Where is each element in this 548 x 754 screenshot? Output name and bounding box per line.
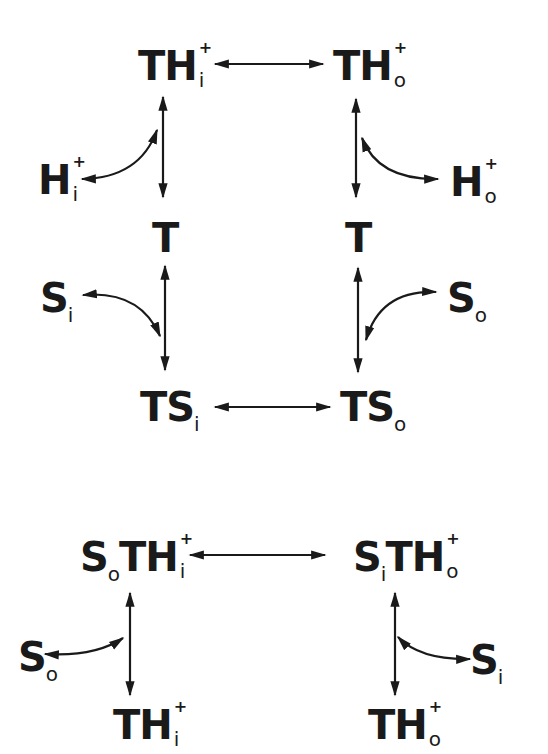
arrow-release-ho bbox=[362, 138, 438, 179]
node-h-outside: H+o bbox=[450, 162, 496, 202]
node-so-th-inside: SoTH+i bbox=[80, 537, 192, 584]
node-ts-outside: TSo bbox=[340, 387, 405, 434]
node-sub: o bbox=[46, 662, 57, 686]
node-base: S bbox=[470, 637, 498, 683]
node-sup: + bbox=[199, 40, 211, 56]
node-base: S bbox=[80, 534, 108, 580]
node-s-inside-released: Si bbox=[470, 640, 502, 687]
arrow-release-hi bbox=[82, 130, 157, 179]
node-ts-inside: TSi bbox=[140, 387, 199, 434]
node-sub: i bbox=[180, 561, 185, 581]
arrow-bind-si bbox=[83, 295, 160, 336]
node-indices: +i bbox=[178, 537, 192, 577]
node-indices: +o bbox=[427, 705, 441, 745]
node-base: H bbox=[38, 157, 70, 203]
node-th-outside: TH+o bbox=[333, 46, 406, 86]
node-base: S bbox=[18, 634, 46, 680]
arrow-release-si bbox=[398, 637, 470, 659]
node-th-inside-bottom: TH+i bbox=[113, 705, 186, 745]
node-indices: +o bbox=[392, 46, 406, 86]
node-sub: i bbox=[68, 303, 73, 327]
node-sup: + bbox=[180, 531, 192, 547]
node-indices: +o bbox=[444, 537, 458, 577]
node-base: T bbox=[152, 215, 178, 261]
node-base: S bbox=[40, 275, 68, 321]
arrow-bind-so bbox=[366, 292, 436, 340]
node-sub: o bbox=[108, 562, 119, 586]
node-base: H bbox=[450, 159, 482, 205]
node-h-inside: H+i bbox=[38, 160, 84, 200]
node-sub: i bbox=[498, 665, 503, 689]
node-sup: + bbox=[174, 699, 186, 715]
node-sub: o bbox=[446, 561, 457, 581]
node-sup: + bbox=[72, 154, 84, 170]
node-s-outside-released: So bbox=[18, 637, 57, 684]
node-sup: + bbox=[484, 156, 496, 172]
node-sub: o bbox=[484, 186, 495, 206]
node-indices: +o bbox=[482, 162, 496, 202]
diagram-arrows bbox=[0, 0, 548, 754]
node-sup: + bbox=[394, 40, 406, 56]
node-base: TS bbox=[340, 384, 394, 430]
node-th-outside-bottom: TH+o bbox=[368, 705, 441, 745]
node-s-inside: Si bbox=[40, 278, 72, 325]
node-base: TH bbox=[119, 534, 178, 580]
node-sub: o bbox=[394, 412, 405, 436]
node-base: S bbox=[447, 275, 475, 321]
node-indices: +i bbox=[197, 46, 211, 86]
node-base: TH bbox=[138, 43, 197, 89]
node-base: S bbox=[353, 534, 381, 580]
node-sup: + bbox=[446, 531, 458, 547]
node-s-outside: So bbox=[447, 278, 486, 325]
node-indices: +i bbox=[172, 705, 186, 745]
node-base: T bbox=[345, 215, 371, 261]
node-t-left: T bbox=[152, 218, 178, 258]
node-base: TH bbox=[385, 534, 444, 580]
node-sub: o bbox=[475, 303, 486, 327]
node-base: TS bbox=[140, 384, 194, 430]
node-sub: i bbox=[174, 729, 179, 749]
node-sub: i bbox=[199, 70, 204, 90]
node-th-inside: TH+i bbox=[138, 46, 211, 86]
node-base: TH bbox=[113, 702, 172, 748]
node-sup: + bbox=[429, 699, 441, 715]
node-base: TH bbox=[333, 43, 392, 89]
node-t-right: T bbox=[345, 218, 371, 258]
node-sub: i bbox=[72, 184, 77, 204]
node-indices: +i bbox=[70, 160, 84, 200]
node-sub: o bbox=[429, 729, 440, 749]
node-sub: i bbox=[194, 412, 199, 436]
node-si-th-outside: SiTH+o bbox=[353, 537, 458, 584]
node-sub: o bbox=[394, 70, 405, 90]
node-base: TH bbox=[368, 702, 427, 748]
